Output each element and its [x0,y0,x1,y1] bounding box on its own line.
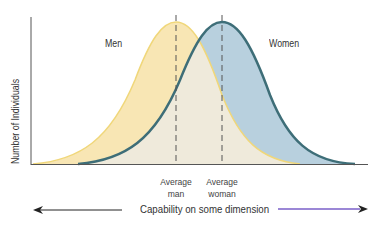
average-woman-line1: Average [200,176,245,188]
y-axis-label: Number of Individuals [10,79,21,164]
women-label: Women [269,38,299,49]
men-label: Men [105,38,122,49]
average-woman-line2: woman [200,188,245,200]
x-axis-label: Capability on some dimension [140,203,269,215]
average-man-label: Average man [154,176,199,200]
average-man-line2: man [154,188,199,200]
average-man-line1: Average [154,176,199,188]
average-woman-label: Average woman [200,176,245,200]
